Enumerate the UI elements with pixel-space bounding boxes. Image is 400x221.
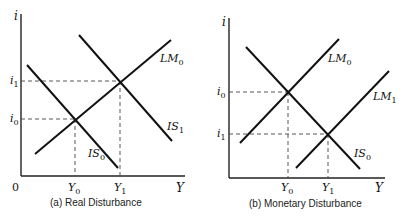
panel-a-lm0-label: LM0 xyxy=(159,52,184,67)
panel-b-y0-tick: Y0 xyxy=(281,181,293,196)
panel-b-is0-label: IS0 xyxy=(353,147,371,162)
panel-a-caption: (a) Real Disturbance xyxy=(50,197,142,208)
panel-b-y1-tick: Y1 xyxy=(322,181,334,196)
panel-a-y1-tick: Y1 xyxy=(114,181,126,196)
panel-b-i0-tick: i0 xyxy=(217,85,226,100)
panel-b-is0-curve xyxy=(246,47,360,169)
panel-a-is1-label: IS1 xyxy=(166,120,184,135)
panel-a-y-axis-label: i xyxy=(14,9,18,23)
panel-b-lm0-curve xyxy=(240,39,339,143)
panel-a-y0-tick: Y0 xyxy=(68,181,80,196)
panel-b-lm1-curve xyxy=(296,71,389,168)
panel-b-x-axis-label: Y xyxy=(375,181,384,195)
panel-b-lm1-label: LM1 xyxy=(372,90,397,105)
panel-b-lm0-label: LM0 xyxy=(327,52,352,67)
islm-diagram: i Y 0 LM0 IS0 IS1 i1 i0 Y0 Y1 (a) Real D… xyxy=(0,0,400,221)
panel-a-i0-tick: i0 xyxy=(10,112,19,127)
panel-a-x-axis-label: Y xyxy=(176,181,185,195)
panel-b-caption: (b) Monetary Disturbance xyxy=(249,198,362,209)
panel-a-origin-label: 0 xyxy=(12,181,19,194)
panel-b-i1-tick: i1 xyxy=(217,127,226,142)
panel-a: i Y 0 LM0 IS0 IS1 i1 i0 Y0 Y1 (a) Real D… xyxy=(10,9,185,208)
panel-b: i Y LM0 LM1 IS0 i0 i1 Y0 Y1 (b) Monetary… xyxy=(217,15,397,209)
panel-b-y-axis-label: i xyxy=(222,15,226,29)
panel-a-i1-tick: i1 xyxy=(10,74,19,89)
